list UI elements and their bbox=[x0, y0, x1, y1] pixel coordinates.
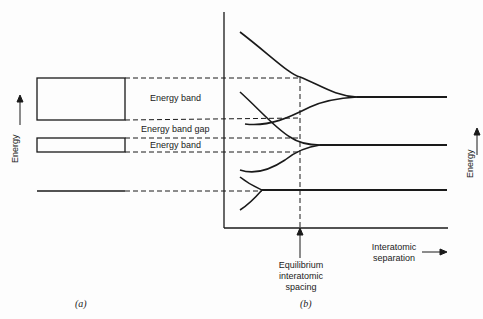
b-x-axis-label: Interatomic separation bbox=[368, 242, 420, 264]
lower-energy-band-label: Energy band bbox=[150, 140, 201, 151]
upper-energy-band-box bbox=[37, 78, 125, 120]
lower-band-bottom-curve bbox=[240, 190, 262, 210]
diagram-graphics bbox=[0, 0, 483, 319]
upper-energy-band-label: Energy band bbox=[150, 93, 201, 104]
panel-a-caption: (a) bbox=[75, 298, 87, 309]
a-energy-axis-label: Energy bbox=[10, 134, 21, 163]
lower-band-top-curve bbox=[240, 177, 262, 190]
b-energy-axis-label: Energy bbox=[465, 149, 476, 178]
upper-band-bottom-curve bbox=[245, 97, 357, 125]
upper-band-top-curve bbox=[240, 32, 357, 97]
panel-b-caption: (b) bbox=[300, 298, 312, 309]
equilibrium-annotation: Equilibrium interatomic spacing bbox=[276, 260, 326, 293]
energy-band-gap-label: Energy band gap bbox=[141, 124, 210, 135]
middle-band-bottom-curve bbox=[240, 145, 320, 172]
energy-band-diagram: Energy Energy band Energy band gap Energ… bbox=[0, 0, 483, 319]
lower-energy-band-box bbox=[37, 138, 125, 152]
